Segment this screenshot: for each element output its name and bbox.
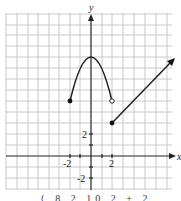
graph-canvas: y x -2 2 2 -2 <box>0 0 181 201</box>
y-axis-label: y <box>88 2 94 13</box>
closed-endpoint-icon <box>68 99 73 104</box>
y-axis-arrow-icon <box>88 14 94 21</box>
axis-labels: y x -2 2 2 -2 <box>63 2 181 184</box>
closed-endpoint-icon <box>110 121 115 126</box>
clipped-caption: { 8 2 10 2 + 2 <box>40 193 151 201</box>
x-axis-arrow-icon <box>169 153 176 159</box>
x-axis-label: x <box>176 151 181 162</box>
ray-line <box>112 61 172 123</box>
x-tick-label: 2 <box>109 158 114 169</box>
grid <box>6 13 172 190</box>
axes <box>6 14 176 190</box>
open-endpoint-icon <box>110 99 114 103</box>
y-tick-label: 2 <box>82 129 87 140</box>
x-tick-label: -2 <box>63 158 71 169</box>
y-tick-label: -2 <box>77 173 85 184</box>
